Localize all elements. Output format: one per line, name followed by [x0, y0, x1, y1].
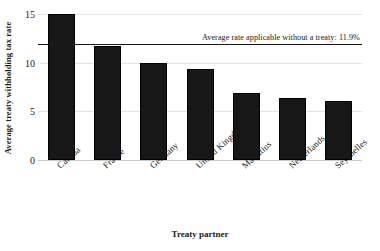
y-tick-label-5: 5	[16, 106, 38, 117]
x-axis-tick-labels: CanadaFranceGermanyUnited KingdomMauriti…	[38, 160, 362, 222]
bar-france	[94, 46, 121, 160]
bar-canada	[48, 14, 75, 160]
y-tick-label-15: 15	[16, 9, 38, 20]
bar-mauritius	[233, 93, 260, 160]
reference-line-label: Average rate applicable without a treaty…	[202, 33, 360, 42]
bar-seychelles	[325, 101, 352, 160]
plot-area: Average rate applicable without a treaty…	[38, 14, 362, 160]
y-tick-label-0: 0	[16, 155, 38, 166]
bar-netherlands	[279, 98, 306, 160]
y-axis-title-text: Average treaty withholding tax rate	[3, 21, 13, 154]
y-tick-label-10: 10	[16, 57, 38, 68]
reference-line	[38, 44, 362, 45]
y-axis-tick-labels: 051015	[16, 0, 38, 175]
x-axis-title: Treaty partner	[38, 229, 362, 239]
y-axis-title: Average treaty withholding tax rate	[0, 0, 16, 175]
bar-germany	[140, 63, 167, 160]
bar-united-kingdom	[187, 69, 214, 160]
bar-chart: Average treaty withholding tax rate 0510…	[0, 0, 380, 251]
